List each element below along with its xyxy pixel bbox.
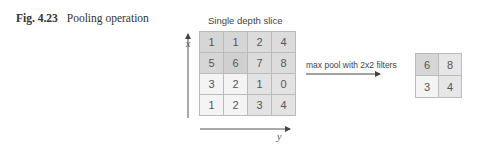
arrows-overlay — [0, 0, 483, 147]
